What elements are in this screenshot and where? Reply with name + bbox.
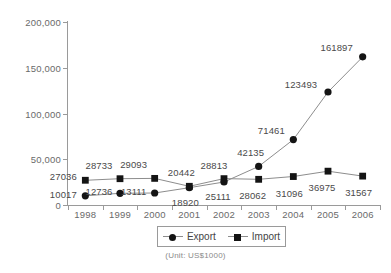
data-point-import-2006 xyxy=(359,173,366,180)
data-point-export-2004 xyxy=(290,136,297,143)
line-chart: 050,000100,000150,000200,000 19981999200… xyxy=(0,0,391,273)
data-point-import-2000 xyxy=(151,175,158,182)
value-label-import-2000: 29093 xyxy=(120,159,147,170)
data-point-import-2005 xyxy=(325,168,332,175)
data-point-export-2003 xyxy=(255,163,262,170)
value-label-import-1999: 28733 xyxy=(86,159,113,170)
value-label-export-2000: 13111 xyxy=(121,186,147,197)
value-label-import-2003: 28062 xyxy=(239,190,266,201)
value-label-import-2006: 31567 xyxy=(345,187,372,198)
data-point-import-1998 xyxy=(82,177,89,184)
legend-label-export: Export xyxy=(187,231,216,242)
value-label-import-2005: 36975 xyxy=(309,182,336,193)
chart-legend[interactable]: Export Import xyxy=(157,226,286,247)
value-label-import-2001: 20442 xyxy=(168,167,195,178)
legend-marker-circle-icon xyxy=(163,232,183,241)
data-point-import-2002 xyxy=(221,175,228,182)
legend-item-import[interactable]: Import xyxy=(228,231,280,242)
value-label-import-2002: 28813 xyxy=(201,159,228,170)
value-label-export-2003: 42135 xyxy=(237,147,264,158)
value-label-export-1999: 12736 xyxy=(86,186,113,197)
data-point-export-2000 xyxy=(151,189,158,196)
value-label-import-1998: 27036 xyxy=(50,171,77,182)
data-point-import-2004 xyxy=(290,173,297,180)
data-point-export-2006 xyxy=(359,53,366,60)
legend-marker-square-icon xyxy=(228,232,248,241)
data-point-import-2001 xyxy=(186,183,193,190)
legend-item-export[interactable]: Export xyxy=(163,231,216,242)
value-label-export-2001: 18920 xyxy=(172,196,199,207)
value-label-export-2005: 123493 xyxy=(285,79,317,90)
value-label-export-2002: 25111 xyxy=(205,191,231,202)
value-label-export-1998: 10017 xyxy=(50,188,77,199)
data-point-import-1999 xyxy=(117,175,124,182)
unit-note: (Unit: US$1000) xyxy=(0,251,391,260)
legend-label-import: Import xyxy=(252,231,280,242)
value-label-export-2006: 161897 xyxy=(321,41,353,52)
data-point-import-2003 xyxy=(255,176,262,183)
value-label-import-2004: 31096 xyxy=(276,187,303,198)
series-line-export xyxy=(85,57,362,196)
data-point-export-2005 xyxy=(324,88,331,95)
value-label-export-2004: 71461 xyxy=(258,124,285,135)
